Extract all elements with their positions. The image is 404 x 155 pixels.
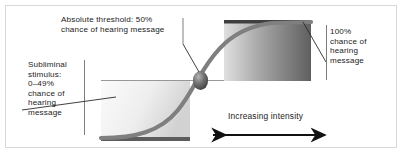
suprathreshold-region-box [224, 20, 311, 81]
absolute-threshold-label: Absolute threshold: 50% chance of hearin… [61, 15, 181, 34]
increasing-intensity-label: Increasing intensity [228, 112, 338, 122]
threshold-marker [193, 71, 208, 90]
threshold-leader-line [183, 44, 199, 72]
full-chance-label: 100% chance of hearing message [330, 27, 392, 65]
subliminal-stimulus-label: Subliminal stimulus: 0–49% chance of hea… [28, 60, 84, 118]
figure-container: Absolute threshold: 50% chance of hearin… [0, 0, 404, 155]
